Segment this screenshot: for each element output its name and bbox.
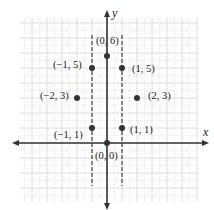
x-axis-left-arrow-icon <box>12 140 19 146</box>
point-label-1-5: (1, 5) <box>132 63 155 75</box>
point <box>89 125 95 131</box>
point-label-neg1-5: (−1, 5) <box>53 59 82 71</box>
y-axis-label: y <box>111 6 118 20</box>
y-axis-up-arrow-icon <box>104 10 110 17</box>
coordinate-plane: x y (0, 6) (−1, 5) (1, 5) (−2, 3) (2, 3)… <box>0 0 214 210</box>
point <box>104 140 110 146</box>
point <box>74 95 80 101</box>
point <box>119 125 125 131</box>
point <box>134 95 140 101</box>
x-axis-label: x <box>202 125 209 139</box>
point-label-neg2-3: (−2, 3) <box>40 90 69 102</box>
x-axis-right-arrow-icon <box>202 140 209 146</box>
y-axis-down-arrow-icon <box>104 203 110 210</box>
point <box>89 65 95 71</box>
point-label-0-6: (0, 6) <box>96 35 119 47</box>
point <box>119 65 125 71</box>
point-label-1-1: (1, 1) <box>130 124 153 136</box>
point-label-2-3: (2, 3) <box>148 90 171 102</box>
point <box>104 53 110 59</box>
point-label-0-0: (0, 0) <box>95 150 118 162</box>
point-label-neg1-1: (−1, 1) <box>54 129 83 141</box>
